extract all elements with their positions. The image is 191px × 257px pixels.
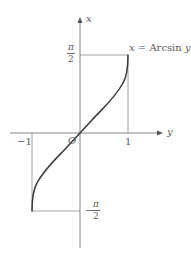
origin-label: O [68,136,76,146]
horizontal-axis-arrow-icon [157,131,163,136]
neg-pi-denominator: 2 [93,211,99,221]
pi-denominator: 2 [68,54,74,64]
vertical-axis-arrow-icon [78,17,83,23]
tick-label-pi-over-2: π 2 [67,43,75,64]
pi-numerator: π [67,43,75,54]
curve-equation-label: x = Arcsin y [129,43,191,53]
tick-label-neg-one: −1 [17,137,32,147]
tick-label-pos-one: 1 [125,137,131,147]
neg-pi-numerator: π [92,200,100,211]
curve-eq-mid: = Arcsin [135,42,185,53]
vertical-axis-label: x [86,14,92,24]
horizontal-axis-label: y [167,127,173,137]
tick-label-neg-pi-over-2: π 2 [92,200,100,221]
curve-eq-rhs: y [185,42,191,53]
